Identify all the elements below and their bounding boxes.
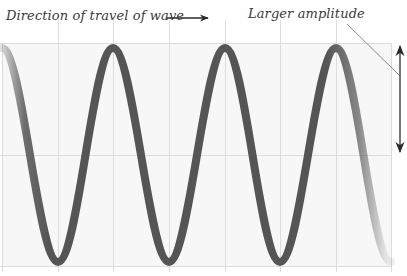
direction-of-travel-label: Direction of travel of wave	[6, 8, 184, 23]
larger-amplitude-label: Larger amplitude	[248, 6, 365, 21]
wave-diagram	[0, 0, 407, 276]
